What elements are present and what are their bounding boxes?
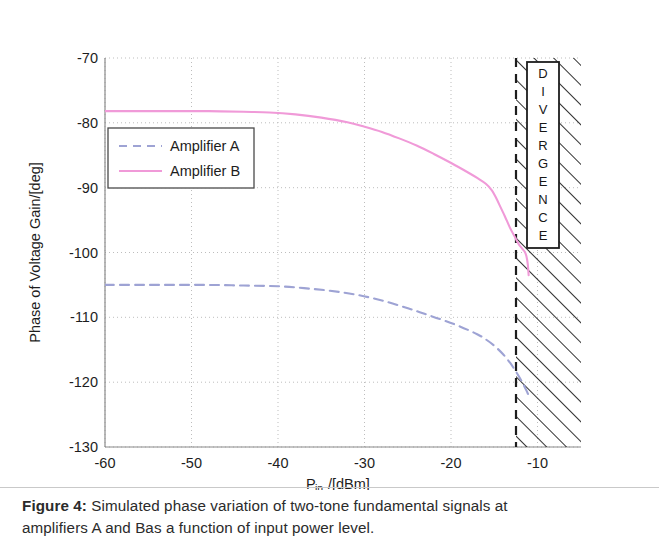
divergence-letter: G: [538, 156, 548, 171]
divergence-letter: C: [538, 210, 547, 225]
figure-caption: Figure 4: Simulated phase variation of t…: [22, 495, 644, 539]
legend-box: [108, 128, 254, 188]
y-tick-label: -130: [69, 439, 98, 455]
divergence-letter: E: [539, 228, 548, 243]
chart-svg: D I V E R G E N C E -70 -80 -90 -100 -11…: [0, 0, 659, 490]
divergence-letter: R: [538, 138, 547, 153]
x-tick-label: -50: [181, 455, 202, 471]
legend-label-amplifier-a: Amplifier A: [170, 138, 240, 154]
divergence-letter: D: [538, 66, 547, 81]
figure-caption-line2: amplifiers A and Bas a function of input…: [22, 517, 644, 539]
x-axis-title-sub: in: [315, 482, 323, 490]
y-tick-label: -110: [70, 309, 98, 325]
y-tick-labels: -70 -80 -90 -100 -110 -120 -130: [69, 50, 98, 455]
divergence-letter: I: [541, 84, 545, 99]
figure-chart: D I V E R G E N C E -70 -80 -90 -100 -11…: [0, 0, 659, 490]
legend-label-amplifier-b: Amplifier B: [170, 163, 240, 179]
divergence-letter: E: [539, 120, 548, 135]
y-axis-title: Phase of Voltage Gain/[deg]: [27, 162, 43, 343]
x-tick-label: -30: [354, 455, 375, 471]
x-tick-label: -10: [527, 455, 548, 471]
caption-divider: [0, 487, 659, 488]
x-tick-labels: -60 -50 -40 -30 -20 -10: [95, 455, 548, 471]
x-tick-label: -20: [441, 455, 462, 471]
divergence-box: D I V E R G E N C E: [527, 62, 559, 248]
y-tick-label: -80: [77, 115, 98, 131]
figure-number: Figure 4:: [22, 497, 87, 514]
y-tick-label: -70: [77, 50, 98, 66]
x-tick-label: -40: [268, 455, 289, 471]
divergence-letter: N: [538, 192, 547, 207]
y-tick-label: -100: [69, 245, 98, 261]
divergence-letter: E: [539, 174, 548, 189]
x-tick-label: -60: [95, 455, 116, 471]
figure-caption-line1: Simulated phase variation of two-tone fu…: [87, 497, 508, 514]
legend: Amplifier A Amplifier B: [108, 128, 254, 188]
divergence-letter: V: [539, 102, 548, 117]
y-tick-label: -90: [77, 180, 98, 196]
y-tick-label: -120: [69, 374, 98, 390]
